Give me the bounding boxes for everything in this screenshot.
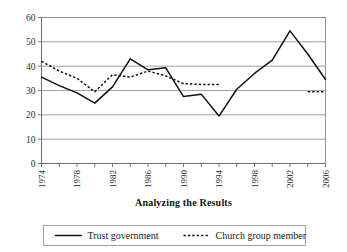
y-axis-ticks: 0102030405060: [26, 13, 42, 169]
chart-legend: Trust governmentChurch group member: [44, 226, 307, 246]
legend-label-2: Church group member: [216, 230, 307, 241]
series-line-1: [42, 31, 326, 116]
x-tick-label: 1982: [108, 170, 118, 188]
x-tick-label: 1978: [72, 170, 82, 189]
y-tick-label: 0: [31, 159, 36, 169]
x-axis-ticks: 197419781982198619901994199820022006: [37, 164, 331, 189]
series-group: [42, 31, 326, 116]
legend-label-1: Trust government: [88, 230, 159, 241]
x-tick-label: 2006: [321, 170, 331, 189]
line-chart: 0102030405060197419781982198619901994199…: [0, 0, 347, 252]
y-tick-label: 60: [26, 13, 36, 23]
x-tick-label: 1998: [250, 170, 260, 189]
x-tick-label: 1986: [143, 170, 153, 189]
y-tick-label: 10: [26, 135, 36, 145]
x-tick-label: 1990: [179, 170, 189, 189]
y-tick-label: 40: [26, 62, 36, 72]
x-tick-label: 2002: [285, 170, 295, 188]
gridlines-group: [42, 18, 326, 140]
y-tick-label: 30: [26, 86, 36, 96]
x-axis-title: Analyzing the Results: [135, 197, 232, 208]
x-tick-label: 1994: [214, 170, 224, 189]
chart-figure: 0102030405060197419781982198619901994199…: [0, 0, 347, 252]
y-tick-label: 20: [26, 110, 36, 120]
x-tick-label: 1974: [37, 170, 47, 189]
y-tick-label: 50: [26, 37, 36, 47]
